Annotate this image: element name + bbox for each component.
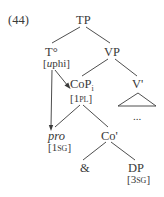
edge-cobar-amp: [83, 142, 106, 160]
ellipsis: ...: [133, 111, 141, 122]
node-amp: &: [80, 162, 90, 174]
node-cobar: Co': [101, 130, 118, 142]
edge-vp-vbar: [115, 59, 137, 76]
edge-tp-vp: [86, 27, 110, 43]
node-tp: TP: [76, 14, 91, 26]
node-vbar: V': [132, 78, 143, 90]
feature-uphi: [uphi]: [43, 58, 70, 69]
edge-cobar-dp: [111, 142, 135, 160]
edge-cop-cobar: [83, 105, 108, 127]
feature-1sg: [1sg]: [48, 142, 71, 153]
triangle-vbar: [118, 93, 156, 106]
feature-1pl: [1pl]: [70, 93, 92, 104]
agree-arrow-cop: [55, 70, 68, 86]
node-vp: VP: [104, 46, 120, 58]
edge-tp-t: [52, 27, 80, 43]
edge-cop-pro: [55, 105, 80, 127]
edge-vp-cop: [82, 59, 108, 76]
example-number: (44): [8, 14, 29, 26]
feature-3sg: [3sg]: [127, 174, 150, 185]
agree-arrow-pro: [51, 70, 52, 127]
